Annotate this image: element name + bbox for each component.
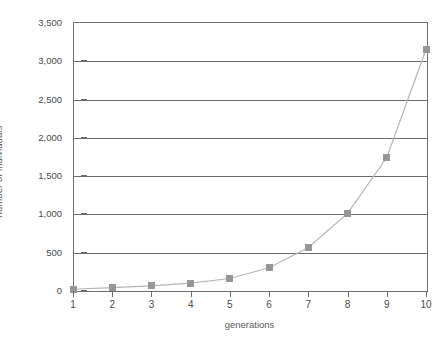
x-axis-tick <box>348 291 349 297</box>
x-axis-tick-label: 9 <box>374 299 400 310</box>
x-axis-tick <box>387 291 388 297</box>
x-axis-tick-label: 1 <box>60 299 86 310</box>
x-axis-tick <box>426 291 427 297</box>
data-point-marker <box>423 46 430 53</box>
x-axis-tick <box>151 291 152 297</box>
data-point-marker <box>226 275 233 282</box>
series-line <box>0 0 447 343</box>
x-axis-tick-label: 8 <box>335 299 361 310</box>
x-axis-tick <box>73 291 74 297</box>
x-axis-tick-label: 5 <box>217 299 243 310</box>
chart-container: number of individuals 05001,0001,5002,00… <box>0 0 447 343</box>
x-axis-tick-label: 3 <box>138 299 164 310</box>
x-axis-tick-label: 2 <box>99 299 125 310</box>
x-axis-tick <box>191 291 192 297</box>
data-point-marker <box>305 244 312 251</box>
x-axis-tick-label: 7 <box>295 299 321 310</box>
x-axis-tick-label: 10 <box>413 299 439 310</box>
data-point-marker <box>344 210 351 217</box>
x-axis-title-label: generations <box>225 319 275 330</box>
x-axis-tick-label: 4 <box>178 299 204 310</box>
x-axis-tick <box>269 291 270 297</box>
x-axis-title: generations <box>73 319 426 330</box>
x-axis-tick <box>308 291 309 297</box>
data-point-marker <box>266 264 273 271</box>
x-axis-tick <box>112 291 113 297</box>
data-point-marker <box>383 154 390 161</box>
data-point-marker <box>187 280 194 287</box>
data-point-marker <box>148 282 155 289</box>
x-axis-tick-label: 6 <box>256 299 282 310</box>
x-axis-tick <box>230 291 231 297</box>
